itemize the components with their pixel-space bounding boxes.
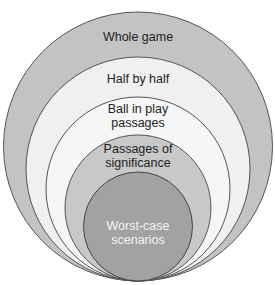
label-worst-case-line1: Worst-case	[107, 219, 170, 233]
nested-circles-diagram: Whole game Half by half Ball in play pas…	[0, 0, 275, 285]
label-worst-case-line2: scenarios	[111, 233, 165, 247]
label-half-by-half: Half by half	[107, 72, 170, 86]
label-passages-line2: significance	[105, 156, 170, 170]
label-ball-in-play-line2: passages	[111, 116, 165, 130]
label-passages-line1: Passages of	[104, 142, 173, 156]
label-ball-in-play-line1: Ball in play	[108, 102, 169, 116]
label-whole-game: Whole game	[103, 30, 173, 44]
